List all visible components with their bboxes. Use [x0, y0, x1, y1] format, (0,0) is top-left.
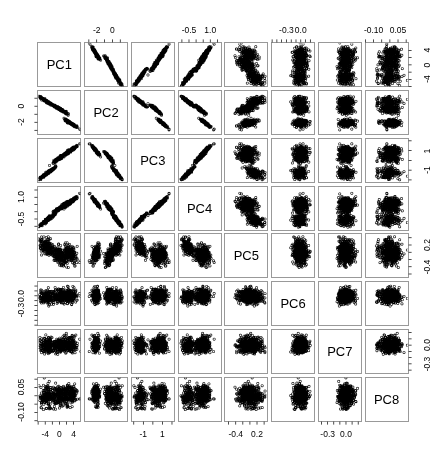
scatterplot-matrix-figure: PC1PC2PC3PC4PC5PC6PC7PC8-20-0.51.0-0.30.…	[0, 0, 445, 459]
scatterplot-matrix-canvas	[0, 0, 445, 459]
